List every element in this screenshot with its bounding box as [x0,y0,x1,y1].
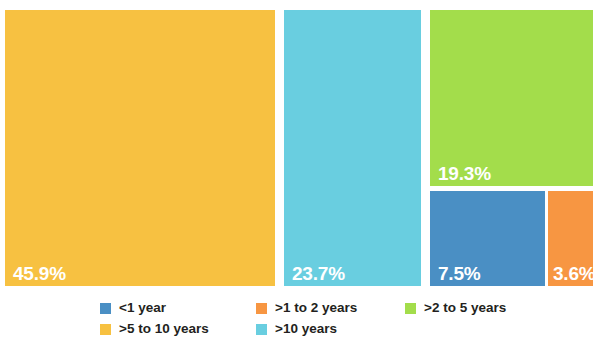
legend-item-label: <1 year [119,301,166,315]
treemap-tile-5-to-10-years[interactable]: 45.9% [5,10,275,286]
legend-item-5-to-10-years[interactable]: >5 to 10 years [100,321,209,337]
legend-item-label: >5 to 10 years [119,322,209,336]
treemap-tile-2-to-5-years[interactable]: 19.3% [430,10,593,186]
treemap-tile-value-label: 23.7% [292,264,345,283]
treemap-tile-value-label: 45.9% [13,264,66,283]
legend-swatch-icon [256,303,267,314]
legend-item-label: >1 to 2 years [275,301,357,315]
treemap-chart-figure: 45.9% 23.7% 19.3% 7.5% 3.6% <1 year >1 t… [0,0,598,338]
legend-item-under-1-year[interactable]: <1 year [100,300,166,316]
treemap-tile-value-label: 19.3% [438,164,491,183]
treemap-tile-value-label: 7.5% [438,264,481,283]
treemap-tile-over-10-years[interactable]: 23.7% [284,10,421,286]
legend-swatch-icon [100,324,111,335]
legend-swatch-icon [405,303,416,314]
treemap-tile-value-label: 3.6% [553,264,596,283]
legend-item-label: >10 years [275,322,337,336]
legend-item-over-10-years[interactable]: >10 years [256,321,337,337]
treemap-tile-under-1-year[interactable]: 7.5% [430,191,545,286]
legend-item-2-to-5-years[interactable]: >2 to 5 years [405,300,506,316]
chart-legend: <1 year >1 to 2 years >2 to 5 years >5 t… [100,300,598,338]
legend-swatch-icon [100,303,111,314]
legend-item-label: >2 to 5 years [424,301,506,315]
legend-swatch-icon [256,324,267,335]
legend-item-1-to-2-years[interactable]: >1 to 2 years [256,300,357,316]
treemap-plot-area: 45.9% 23.7% 19.3% 7.5% 3.6% [5,10,593,286]
treemap-tile-1-to-2-years[interactable]: 3.6% [548,191,593,286]
